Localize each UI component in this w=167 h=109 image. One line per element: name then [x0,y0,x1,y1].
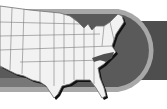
us-map-illustration [0,0,167,109]
us-map-banner-graphic [0,0,167,109]
